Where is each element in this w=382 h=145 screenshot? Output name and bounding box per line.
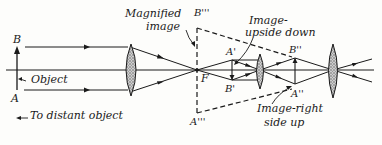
label-object: Object [31,74,68,85]
label-to-distant-object: To distant object [30,110,123,121]
label-magnified: Magnified [125,8,181,19]
label-A: A [11,93,19,104]
label-B: B [13,34,21,45]
label-A-prime: A' [226,47,236,57]
label-side-up: side up [264,117,304,128]
label-image: image [146,21,180,32]
object-arrowhead-icon [14,46,20,54]
label-upside-down: upside down [245,27,316,38]
label-B-double-prime: B'' [289,45,302,55]
objective-lens [126,44,136,96]
label-B-triple-prime: B''' [194,8,210,18]
label-F: F [201,73,209,84]
focal-point [195,68,199,72]
label-image-upside: Image- [249,15,288,26]
label-image-right: Image-right [257,103,323,114]
upside-down-leader [236,38,253,63]
label-B-prime: B' [225,84,235,94]
label-A-double-prime: A'' [291,89,304,99]
eyepiece-lens [329,44,338,98]
telescope-diagram: B A Object To distant object Magnified i… [0,0,382,145]
erecting-lens [257,54,264,89]
label-A-triple-prime: A''' [190,117,205,127]
